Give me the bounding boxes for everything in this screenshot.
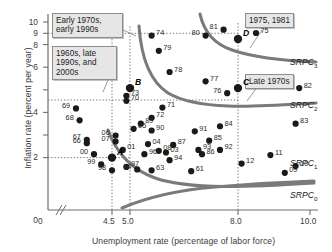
y-tick-9: 9 xyxy=(16,28,38,38)
data-point-label: 92 xyxy=(225,142,233,151)
data-point-label: 97 xyxy=(131,159,139,168)
data-point xyxy=(293,121,299,127)
data-point-label: 91 xyxy=(199,124,207,133)
data-point-label: 98 xyxy=(98,163,106,172)
data-point-label: 81 xyxy=(210,22,218,31)
srpc-curves xyxy=(108,14,316,208)
curve-label-srpc-0-name: SRPC xyxy=(290,190,314,200)
x-axis-title: Unemployment rate (percentage of labor f… xyxy=(92,236,275,246)
data-point xyxy=(84,137,90,143)
data-point-label: 75 xyxy=(261,26,269,35)
data-point-label: 80 xyxy=(192,28,200,37)
data-point xyxy=(167,157,173,163)
data-point-label: 12 xyxy=(246,156,254,165)
data-point-label: 84 xyxy=(225,119,233,128)
curve-label-srpc-3-name: SRPC xyxy=(290,57,314,67)
x-tick-0: 0 xyxy=(38,216,43,226)
data-point xyxy=(77,117,83,123)
data-point xyxy=(221,27,227,33)
data-point xyxy=(73,105,79,111)
key-point-d xyxy=(234,35,242,43)
data-point xyxy=(203,32,209,38)
data-point-label: 82 xyxy=(304,81,312,90)
data-point xyxy=(282,170,288,176)
key-point-label-d: D xyxy=(243,28,249,38)
key-point-label-a: A xyxy=(117,147,123,157)
data-point xyxy=(192,128,198,134)
data-point-label: 77 xyxy=(210,74,218,83)
y-tick-6: 6 xyxy=(16,62,38,72)
y-tick-8: 8 xyxy=(16,40,38,50)
data-point-label: 11 xyxy=(275,148,283,157)
y-tick-2: 2 xyxy=(16,152,38,162)
data-point-label: 09 xyxy=(289,165,297,174)
data-point xyxy=(253,30,259,36)
data-point xyxy=(239,160,245,166)
data-point-label: 83 xyxy=(300,116,308,125)
data-point-label: 05 xyxy=(138,121,146,130)
data-point xyxy=(217,123,223,129)
curve-label-srpc-2-name: SRPC xyxy=(290,100,314,110)
data-point xyxy=(123,93,129,99)
data-point xyxy=(113,132,119,138)
key-point-label-c: C xyxy=(243,77,249,87)
data-point xyxy=(167,69,173,75)
data-point xyxy=(156,48,162,54)
y-tick-10: 10 xyxy=(16,17,38,27)
y-axis-ticks xyxy=(43,22,48,158)
data-point-label: 67 xyxy=(73,132,81,141)
x-axis-ticks xyxy=(112,210,310,215)
y-tick-0: 0 xyxy=(16,215,38,225)
x-tick-4-5: 4.5 xyxy=(103,216,115,226)
x-tick-10-0: 10.0 xyxy=(300,216,316,226)
data-point-label: 72 xyxy=(156,110,164,119)
data-point-label: 76 xyxy=(213,86,221,95)
data-point-label: 00 xyxy=(80,147,88,156)
curve-label-srpc-0-sub: 0 xyxy=(314,195,317,202)
data-point xyxy=(188,168,194,174)
data-point xyxy=(267,152,273,158)
x-tick-8-0: 8.0 xyxy=(230,216,242,226)
data-point-label: 89 xyxy=(145,116,153,125)
data-point-label: 61 xyxy=(196,164,204,173)
data-point-label: 73 xyxy=(131,88,139,97)
data-point xyxy=(113,138,119,144)
data-point-label: 71 xyxy=(167,100,175,109)
curve-label-srpc-0: SRPC0 xyxy=(290,190,317,202)
data-point-label: 10 xyxy=(300,159,308,168)
data-point-label: 69 xyxy=(62,101,70,110)
curve-label-srpc-3: SRPC3 xyxy=(290,57,317,69)
data-point xyxy=(141,151,147,157)
curve-label-srpc-1-sub: 1 xyxy=(314,163,317,170)
key-point-c xyxy=(234,84,242,92)
data-point-label: 04 xyxy=(153,137,161,146)
data-point xyxy=(224,90,230,96)
annotation-1960s-late-1990s: 1960s, late 1990s, and 2000s xyxy=(52,46,117,80)
data-point-label: 74 xyxy=(156,28,164,37)
key-point-label-b: B xyxy=(135,77,141,87)
data-point-label: 01 xyxy=(127,142,135,151)
data-point xyxy=(195,147,201,153)
data-point xyxy=(149,32,155,38)
annotation-late-1970s: Late 1970s xyxy=(245,74,294,89)
data-point xyxy=(109,167,115,173)
data-point-label: 78 xyxy=(174,65,182,74)
curve-label-srpc-2: SRPC2 xyxy=(290,100,317,112)
data-point xyxy=(296,85,302,91)
data-point-label: 85 xyxy=(214,133,222,142)
data-point-label: 68 xyxy=(66,113,74,122)
annotation-early-1970s: Early 1970s, early 1990s xyxy=(52,13,123,38)
data-point-label: 07 xyxy=(102,134,110,143)
data-point-label: 93 xyxy=(203,142,211,151)
data-point-label: 87 xyxy=(178,137,186,146)
data-point-label: 03 xyxy=(171,145,179,154)
data-point xyxy=(203,78,209,84)
chart-plot-area xyxy=(0,0,332,252)
data-point-label: 79 xyxy=(163,43,171,52)
phillips-curve-figure: Unemployment rate (percentage of labor f… xyxy=(0,0,332,252)
data-point xyxy=(149,167,155,173)
data-point-label: 99 xyxy=(87,157,95,166)
data-point xyxy=(217,147,223,153)
annotation-1975-1981: 1975, 1981 xyxy=(245,13,294,28)
data-point xyxy=(131,126,137,132)
